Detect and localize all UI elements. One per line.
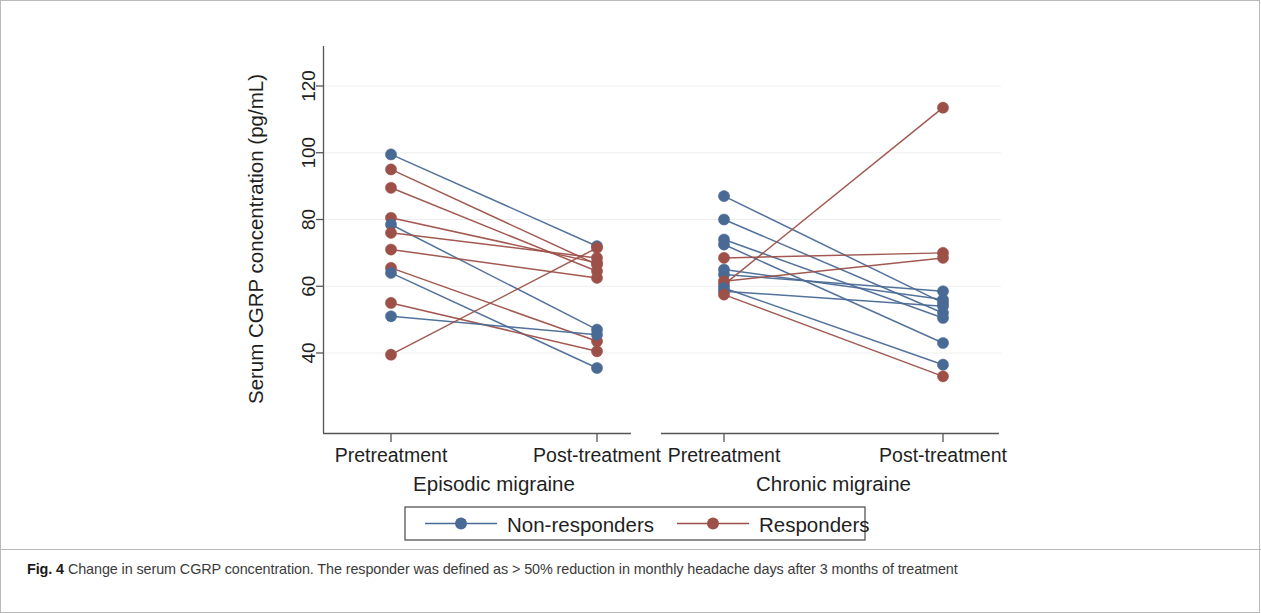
data-point — [591, 329, 602, 340]
data-point — [591, 252, 602, 263]
figure-caption-bar: Fig. 4 Change in serum CGRP concentratio… — [1, 549, 1261, 613]
data-point — [591, 242, 602, 253]
data-point — [937, 102, 948, 113]
figure-caption-label: Fig. 4 — [27, 561, 64, 577]
panel-group-label: Chronic migraine — [756, 472, 911, 495]
data-point — [591, 346, 602, 357]
figure-caption-body: Change in serum CGRP concentration. The … — [64, 561, 958, 577]
series-line — [724, 196, 943, 303]
series-line — [724, 270, 943, 300]
chart-svg: 406080100120Serum CGRP concentration (pg… — [1, 1, 1261, 549]
data-point — [718, 252, 729, 263]
data-point — [718, 289, 729, 300]
x-axis-tick-label: Pretreatment — [335, 444, 448, 466]
x-axis-tick-label: Pretreatment — [668, 444, 781, 466]
y-axis-title: Serum CGRP concentration (pg/mL) — [244, 74, 267, 404]
data-point — [937, 312, 948, 323]
legend-marker-responders — [707, 518, 719, 530]
panel-group-label: Episodic migraine — [413, 472, 575, 495]
series-line — [724, 108, 943, 285]
data-point — [718, 214, 729, 225]
data-point — [937, 337, 948, 348]
data-point — [591, 362, 602, 373]
x-axis-tick-label: Post-treatment — [879, 444, 1007, 466]
data-point — [937, 252, 948, 263]
y-axis-tick-label: 120 — [298, 70, 319, 102]
series-line — [391, 316, 597, 334]
x-axis-tick-label: Post-treatment — [533, 444, 661, 466]
data-point — [591, 272, 602, 283]
series-line — [391, 268, 597, 341]
data-point — [718, 239, 729, 250]
plot-area: 406080100120Serum CGRP concentration (pg… — [1, 1, 1261, 549]
data-point — [385, 311, 396, 322]
data-point — [718, 191, 729, 202]
y-axis-tick-label: 60 — [298, 276, 319, 297]
y-axis-tick-label: 40 — [298, 342, 319, 363]
data-point — [937, 359, 948, 370]
data-point — [385, 164, 396, 175]
data-point — [385, 349, 396, 360]
legend-label-responders: Responders — [759, 513, 870, 536]
series-line — [391, 273, 597, 368]
data-point — [937, 371, 948, 382]
data-point — [385, 182, 396, 193]
data-point — [385, 227, 396, 238]
series-line — [391, 303, 597, 351]
series-line — [724, 258, 943, 281]
data-point — [385, 267, 396, 278]
data-point — [385, 297, 396, 308]
legend-label-non-responders: Non-responders — [507, 513, 654, 536]
data-point — [937, 286, 948, 297]
legend-marker-non-responders — [455, 518, 467, 530]
data-point — [385, 244, 396, 255]
figure-caption: Fig. 4 Change in serum CGRP concentratio… — [27, 559, 1235, 581]
data-point — [385, 149, 396, 160]
series-line — [391, 169, 597, 264]
data-point — [937, 301, 948, 312]
y-axis-tick-label: 100 — [298, 137, 319, 169]
y-axis-tick-label: 80 — [298, 209, 319, 230]
